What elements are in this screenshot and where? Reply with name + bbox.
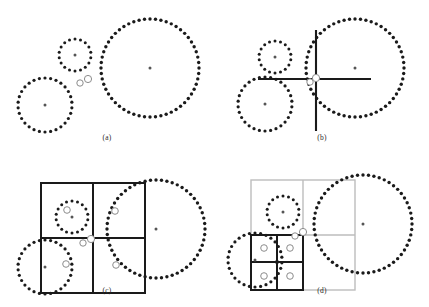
query-marker-1: [292, 233, 298, 239]
subcell-marker-se: [287, 273, 294, 280]
panel-d: (d): [215, 154, 429, 307]
circle-center-dot: [149, 67, 152, 70]
quadrant-marker-ne: [112, 208, 119, 215]
query-marker-2: [299, 228, 306, 235]
quadrant-marker-nw: [64, 207, 71, 214]
circle-center-dot: [354, 67, 357, 70]
circle-center-dot: [74, 54, 77, 57]
query-marker-1: [307, 79, 313, 85]
panel-c: (c): [0, 154, 214, 307]
circle-center-dot: [274, 56, 277, 59]
query-marker-2: [84, 75, 91, 82]
figure-container: (a) (b) (c) (d): [0, 0, 429, 307]
circle-center-dot: [44, 104, 47, 107]
panel-d-label: (d): [215, 286, 429, 295]
panel-b: (b): [215, 0, 429, 153]
circle-center-dot: [254, 259, 257, 262]
subcell-marker-ne: [287, 245, 294, 252]
panel-b-label: (b): [215, 133, 429, 142]
query-marker-2: [87, 235, 94, 242]
quadrant-marker-sw: [63, 261, 70, 268]
panel-b-canvas: [215, 0, 429, 153]
panel-d-canvas: [215, 154, 429, 307]
query-marker-1: [77, 80, 83, 86]
circle-center-dot: [44, 266, 47, 269]
panel-a-label: (a): [0, 133, 214, 142]
subcell-marker-sw: [261, 273, 268, 280]
panel-a: (a): [0, 0, 214, 153]
panel-a-canvas: [0, 0, 214, 153]
query-marker-2: [312, 74, 319, 81]
quadrant-marker-se: [113, 262, 120, 269]
circle-center-dot: [282, 211, 285, 214]
circle-center-dot: [155, 228, 158, 231]
subcell-marker-nw: [261, 245, 268, 252]
circle-center-dot: [264, 103, 267, 106]
circle-center-dot: [362, 223, 365, 226]
query-marker-1: [80, 240, 86, 246]
subgrid-corner-dot: [275, 260, 279, 264]
panel-c-canvas: [0, 154, 214, 307]
circle-center-dot: [71, 216, 74, 219]
panel-c-label: (c): [0, 286, 214, 295]
